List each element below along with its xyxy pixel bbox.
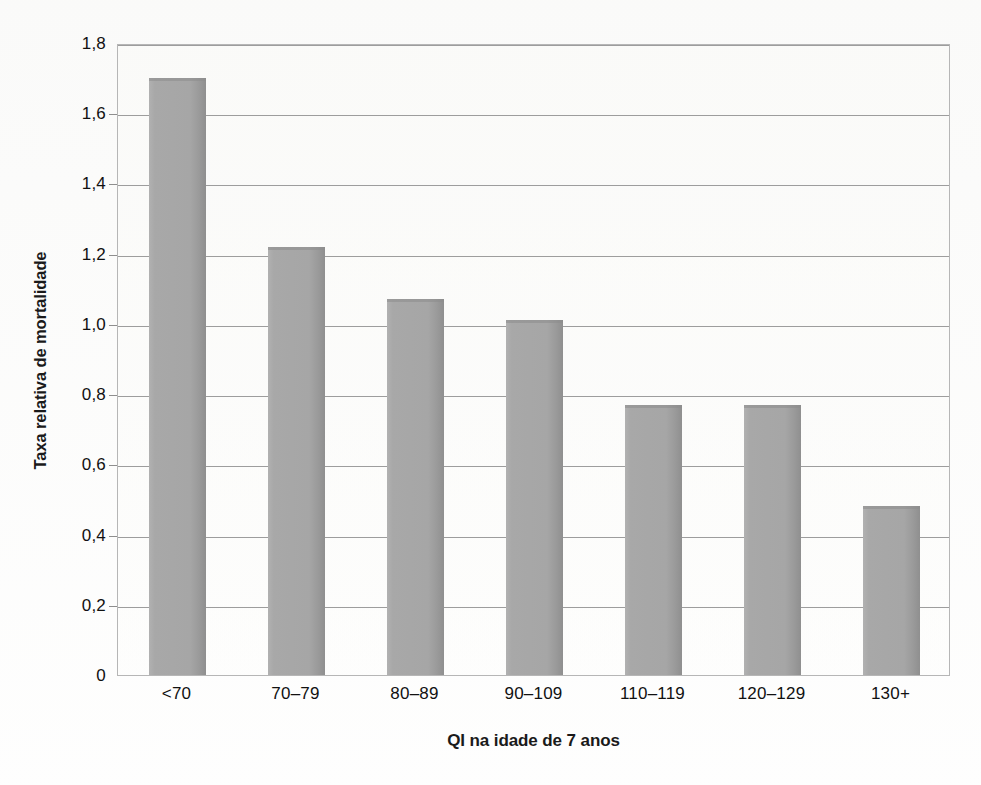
y-tick-label: 0,4 xyxy=(46,526,106,546)
gridline-1-2 xyxy=(118,256,949,257)
plot-area xyxy=(117,44,950,676)
x-tick-label: 80–89 xyxy=(390,684,438,704)
bar-90–109 xyxy=(506,320,563,675)
y-axis-tick-labels: 00,20,40,60,81,01,21,41,61,8 xyxy=(42,44,106,676)
y-tick-label: 1,0 xyxy=(46,315,106,335)
y-tick-label: 1,4 xyxy=(46,174,106,194)
y-tick-label: 0,8 xyxy=(46,385,106,405)
y-tick-label: 1,6 xyxy=(46,104,106,124)
y-tick-label: 1,2 xyxy=(46,245,106,265)
bar-80–89 xyxy=(387,299,444,675)
gridline-1-8 xyxy=(118,45,949,46)
bar-110–119 xyxy=(625,405,682,675)
x-axis-title: QI na idade de 7 anos xyxy=(117,731,950,751)
bar-130+ xyxy=(863,506,920,675)
y-tick-label: 0,2 xyxy=(46,596,106,616)
x-tick-label: 120–129 xyxy=(738,684,806,704)
x-tick-label: 110–119 xyxy=(620,684,685,704)
x-axis-tick-labels: <7070–7980–8990–109110–119120–129130+ xyxy=(117,684,950,718)
x-tick-label: <70 xyxy=(162,684,191,704)
gridline-1-6 xyxy=(118,115,949,116)
x-tick-label: 130+ xyxy=(871,684,910,704)
bar-120–129 xyxy=(744,405,801,675)
gridline-1-4 xyxy=(118,185,949,186)
y-tick-label: 1,8 xyxy=(46,34,106,54)
y-tick-label: 0 xyxy=(46,666,106,686)
x-tick-label: 70–79 xyxy=(271,684,319,704)
x-tick-label: 90–109 xyxy=(505,684,563,704)
y-tick-label: 0,6 xyxy=(46,455,106,475)
bar-chart-figure: Taxa relativa de mortalidade 00,20,40,60… xyxy=(0,0,981,785)
x-axis-title-label: QI na idade de 7 anos xyxy=(447,731,620,750)
bar-70–79 xyxy=(268,247,325,675)
bar-<70 xyxy=(149,78,206,675)
